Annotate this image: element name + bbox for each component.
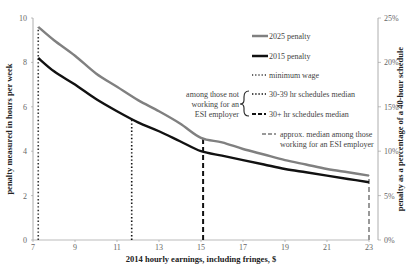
y-tick-label: 2 (23, 192, 27, 201)
legend-group-label-2: working for an (191, 100, 239, 109)
x-tick-label: 7 (31, 243, 35, 252)
legend-label-30plus: 30+ hr schedules median (269, 110, 349, 119)
chart: 7911131517192123 0246810 0%5%10%15%20%25… (0, 0, 414, 278)
y-tick-label: 0 (23, 236, 27, 245)
y-axis-title: penalty measured in hours per week (4, 63, 14, 194)
y2-tick-label: 5% (384, 192, 395, 201)
y-tick-label: 4 (23, 147, 27, 156)
legend-label-3039: 30-39 hr schedules median (269, 90, 355, 99)
legend-label-2025: 2025 penalty (269, 32, 311, 41)
legend-label-esi-2: working for an ESI employer (280, 140, 374, 149)
x-tick-label: 17 (239, 243, 247, 252)
x-tick-label: 9 (73, 243, 77, 252)
x-tick-label: 11 (113, 243, 121, 252)
y-ticks: 0246810 (19, 14, 33, 245)
x-tick-label: 13 (155, 243, 163, 252)
x-ticks: 7911131517192123 (31, 240, 373, 252)
legend-label-2015: 2015 penalty (269, 52, 311, 61)
y-tick-label: 8 (23, 58, 27, 67)
y2-axis-title: penalty as a percentage of a 40-hour sch… (395, 47, 405, 211)
y2-tick-label: 25% (384, 14, 399, 23)
x-tick-label: 21 (323, 243, 331, 252)
legend-group-label-3: ESI employer (195, 110, 240, 119)
axes (33, 18, 378, 240)
legend-label-minwage: minimum wage (269, 71, 319, 80)
x-tick-label: 23 (365, 243, 373, 252)
legend-label-esi-1: approx. median among those (280, 130, 373, 139)
legend-brace-icon (240, 91, 249, 116)
y2-tick-label: 0% (384, 236, 395, 245)
legend-group-label-1: among those not (186, 90, 240, 99)
x-axis-title: 2014 hourly earnings, including fringes,… (126, 254, 277, 264)
x-tick-label: 15 (197, 243, 205, 252)
y-tick-label: 6 (23, 103, 27, 112)
y-tick-label: 10 (19, 14, 27, 23)
legend: 2025 penalty 2015 penalty minimum wage a… (186, 32, 374, 149)
x-tick-label: 19 (281, 243, 289, 252)
